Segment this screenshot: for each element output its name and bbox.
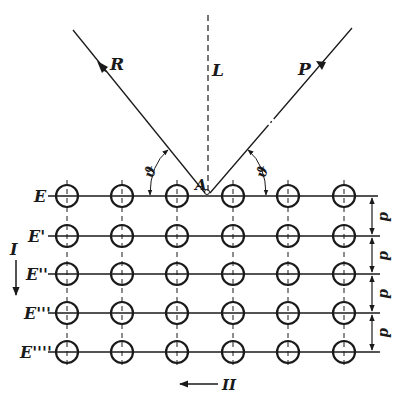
bragg-reflection-diagram: R L P A ϑ ϑ E E' E'' E''' E'''' I II d d…: [0, 0, 394, 400]
plane-label-1: E': [27, 227, 45, 246]
label-direction-ii: II: [221, 376, 237, 394]
label-direction-i: I: [9, 240, 18, 259]
incident-ray: [210, 28, 352, 193]
spacing-label-3: d: [377, 328, 393, 338]
label-angle-left: ϑ: [141, 163, 160, 180]
label-a: A: [193, 176, 207, 194]
plane-label-0: E: [33, 187, 47, 206]
label-p: P: [297, 59, 312, 79]
label-r: R: [109, 54, 124, 74]
plane-label-3: E''': [23, 304, 51, 323]
spacing-label-2: d: [377, 289, 393, 299]
diagram-canvas: R L P A ϑ ϑ E E' E'' E''' E'''' I II d d…: [0, 0, 394, 400]
plane-label-2: E'': [25, 265, 48, 284]
plane-label-4: E'''': [19, 343, 52, 362]
reflected-ray: [73, 30, 205, 193]
label-l: L: [211, 60, 224, 80]
spacing-label-0: d: [377, 212, 393, 222]
spacing-label-1: d: [377, 251, 393, 261]
label-angle-right: ϑ: [253, 163, 272, 180]
lattice-planes: [48, 196, 380, 352]
